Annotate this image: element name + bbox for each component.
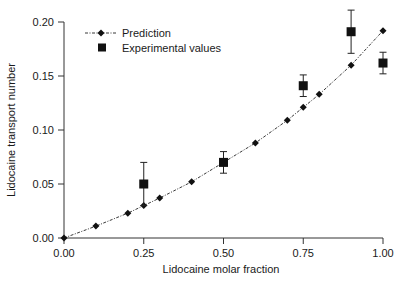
prediction-point bbox=[188, 178, 195, 185]
x-axis: 0.000.250.500.751.00 bbox=[53, 238, 393, 259]
x-tick-label: 0.25 bbox=[133, 247, 154, 259]
experimental-series bbox=[139, 10, 387, 205]
prediction-point bbox=[92, 223, 99, 230]
y-tick-label: 0.00 bbox=[33, 232, 54, 244]
y-tick-label: 0.15 bbox=[33, 70, 54, 82]
x-tick-label: 0.50 bbox=[213, 247, 234, 259]
prediction-point bbox=[252, 139, 259, 146]
x-tick-label: 1.00 bbox=[372, 247, 393, 259]
legend-label-prediction: Prediction bbox=[122, 27, 171, 39]
y-axis: 0.000.050.100.150.20 bbox=[33, 16, 64, 244]
experimental-point bbox=[299, 75, 308, 97]
diamond-marker-icon bbox=[98, 30, 105, 37]
x-tick-label: 0.75 bbox=[293, 247, 314, 259]
y-axis-label: Lidocaine transport number bbox=[5, 63, 17, 197]
prediction-point bbox=[61, 235, 68, 242]
x-axis-label: Lidocaine molar fraction bbox=[163, 263, 280, 275]
experimental-point bbox=[139, 162, 148, 205]
prediction-series bbox=[61, 27, 387, 241]
x-tick-label: 0.00 bbox=[53, 247, 74, 259]
legend-item-experimental: Experimental values bbox=[98, 42, 222, 54]
square-marker-icon bbox=[98, 44, 106, 52]
prediction-line bbox=[64, 31, 383, 238]
y-tick-label: 0.10 bbox=[33, 124, 54, 136]
prediction-point bbox=[380, 27, 387, 34]
chart: 0.000.050.100.150.20 0.000.250.500.751.0… bbox=[0, 0, 404, 287]
y-tick-label: 0.20 bbox=[33, 16, 54, 28]
experimental-point bbox=[347, 10, 356, 53]
legend: Prediction Experimental values bbox=[85, 27, 222, 54]
prediction-point bbox=[156, 195, 163, 202]
prediction-point bbox=[124, 210, 131, 217]
prediction-point bbox=[316, 91, 323, 98]
legend-label-experimental: Experimental values bbox=[122, 42, 222, 54]
experimental-point bbox=[379, 52, 388, 74]
legend-item-prediction: Prediction bbox=[85, 27, 171, 39]
y-tick-label: 0.05 bbox=[33, 178, 54, 190]
experimental-point bbox=[219, 152, 228, 174]
